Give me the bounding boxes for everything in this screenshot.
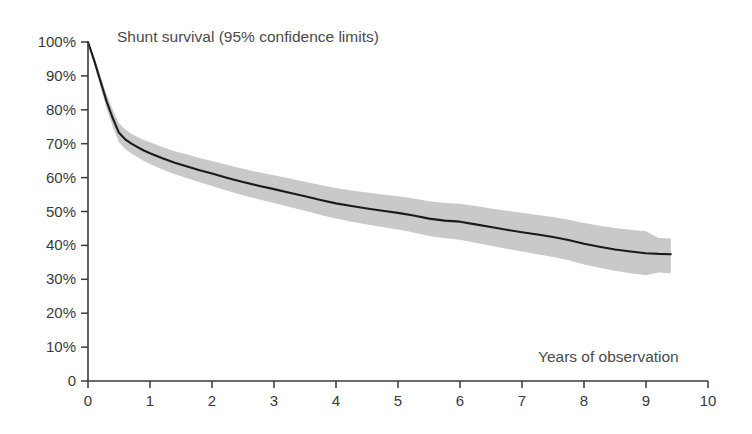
x-tick-label: 2 xyxy=(187,392,237,409)
y-tick-label: 30% xyxy=(0,270,76,287)
x-tick-label: 9 xyxy=(621,392,671,409)
y-tick-label: 0 xyxy=(0,372,76,389)
x-tick-label: 1 xyxy=(125,392,175,409)
chart-title: Shunt survival (95% confidence limits) xyxy=(117,28,379,46)
confidence-band xyxy=(88,42,671,275)
x-tick-label: 8 xyxy=(559,392,609,409)
x-tick-label: 3 xyxy=(249,392,299,409)
x-axis-label: Years of observation xyxy=(538,348,679,366)
x-tick-label: 5 xyxy=(373,392,423,409)
y-axis-ticks xyxy=(81,42,88,381)
y-tick-label: 100% xyxy=(0,33,76,50)
y-tick-label: 10% xyxy=(0,338,76,355)
x-tick-label: 6 xyxy=(435,392,485,409)
y-tick-label: 90% xyxy=(0,67,76,84)
x-tick-label: 7 xyxy=(497,392,547,409)
y-tick-label: 40% xyxy=(0,236,76,253)
x-tick-label: 4 xyxy=(311,392,361,409)
y-tick-label: 20% xyxy=(0,304,76,321)
y-tick-label: 80% xyxy=(0,101,76,118)
shunt-survival-chart xyxy=(0,0,752,434)
x-tick-label: 10 xyxy=(683,392,733,409)
x-axis-ticks xyxy=(88,381,708,388)
y-tick-label: 50% xyxy=(0,203,76,220)
chart-figure: 010%20%30%40%50%60%70%80%90%100% 0123456… xyxy=(0,0,752,434)
y-tick-label: 60% xyxy=(0,169,76,186)
y-tick-label: 70% xyxy=(0,135,76,152)
x-tick-label: 0 xyxy=(63,392,113,409)
